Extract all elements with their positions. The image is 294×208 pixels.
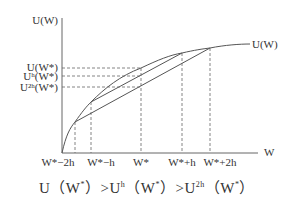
x-axis-label: W <box>264 146 275 158</box>
x-tick-w: W* <box>133 156 149 168</box>
x-tick-w-h: W*−h <box>87 156 115 168</box>
inequality-caption: U（W*）>Uh（W*）>U2h（W*） <box>0 176 294 197</box>
caption-text: U（W <box>39 180 81 196</box>
x-tick-w-2h: W*−2h <box>41 156 75 168</box>
caption-text: （W <box>125 180 155 196</box>
caption-text: （W <box>205 180 235 196</box>
utility-curve <box>62 44 250 153</box>
chord-h <box>91 53 182 102</box>
x-tick-w+2h: W*+2h <box>203 156 237 168</box>
x-tick-w+h: W*+h <box>168 156 196 168</box>
y-axis-label: U(W) <box>32 14 58 27</box>
curve-label: U(W) <box>252 38 278 51</box>
y-tick-u2h: U²ʰ(W*) <box>20 81 58 94</box>
caption-text: ）>U <box>160 180 196 196</box>
caption-text: ）>U <box>85 180 121 196</box>
caption-sup: 2h <box>196 180 205 189</box>
caption-text: ） <box>239 180 255 196</box>
chord-2h <box>75 48 210 122</box>
